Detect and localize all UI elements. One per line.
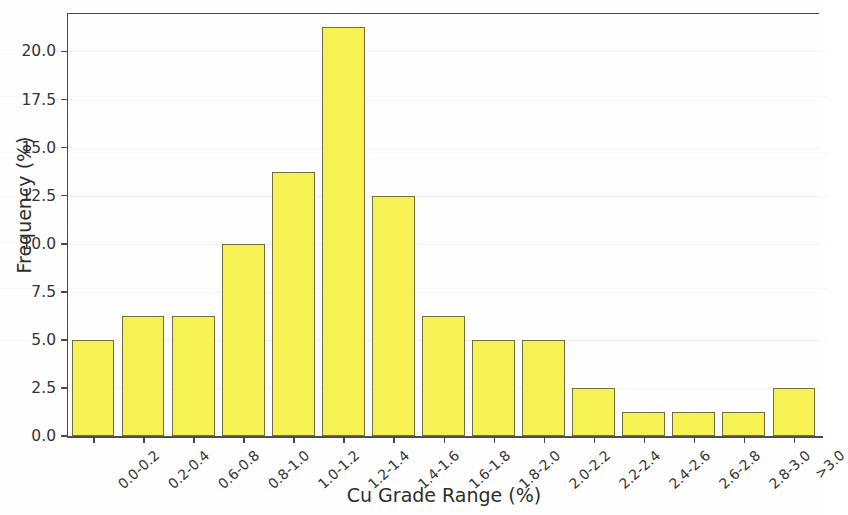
y-tick-label: 0.0 <box>31 426 56 446</box>
bar <box>572 388 615 436</box>
y-tick-label: 2.5 <box>31 378 56 398</box>
x-tick-mark <box>694 437 696 443</box>
bar <box>522 340 565 436</box>
bar <box>222 244 265 436</box>
bar <box>622 412 665 436</box>
bar <box>472 340 515 436</box>
x-tick-mark <box>193 437 195 443</box>
x-tick-mark <box>794 437 796 443</box>
y-tick-mark <box>61 243 67 245</box>
x-tick-mark <box>444 437 446 443</box>
x-tick-mark <box>544 437 546 443</box>
x-tick-label: >3.0 <box>812 447 848 482</box>
y-tick-label: 7.5 <box>31 282 56 302</box>
y-tick-mark <box>61 99 67 101</box>
bar <box>322 27 365 436</box>
bar <box>372 196 415 436</box>
x-tick-mark <box>494 437 496 443</box>
x-tick-mark <box>744 437 746 443</box>
bars-layer <box>68 13 819 436</box>
x-axis-title: Cu Grade Range (%) <box>0 484 828 506</box>
y-tick-mark <box>61 387 67 389</box>
x-tick-mark <box>343 437 345 443</box>
y-tick-label: 20.0 <box>21 41 56 61</box>
x-axis-title-text: Cu Grade Range (%) <box>347 484 541 506</box>
bar <box>672 412 715 436</box>
x-tick-mark <box>93 437 95 443</box>
x-tick-mark <box>243 437 245 443</box>
y-tick-mark <box>61 435 67 437</box>
x-tick-mark <box>143 437 145 443</box>
bar <box>422 316 465 436</box>
bar <box>72 340 115 436</box>
x-tick-mark <box>644 437 646 443</box>
x-tick-mark <box>594 437 596 443</box>
x-tick-mark <box>293 437 295 443</box>
y-tick-mark <box>61 339 67 341</box>
y-tick-mark <box>61 147 67 149</box>
y-axis-title: Frequency (%) <box>13 85 35 325</box>
bar <box>773 388 816 436</box>
y-tick-label: 5.0 <box>31 330 56 350</box>
x-tick-mark <box>393 437 395 443</box>
y-tick-mark <box>61 51 67 53</box>
y-tick-mark <box>61 195 67 197</box>
bar <box>272 172 315 436</box>
bar <box>722 412 765 436</box>
bar <box>172 316 215 436</box>
bar <box>122 316 165 436</box>
y-tick-mark <box>61 291 67 293</box>
